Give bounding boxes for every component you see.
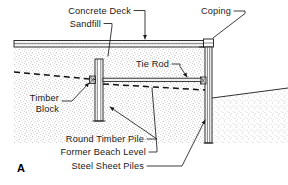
- figure-container: Concrete Deck Sandfill Coping Tie Rod Ti…: [0, 0, 288, 185]
- label-steel-sheet-piles: Steel Sheet Piles: [71, 161, 144, 171]
- label-timber-block-line1: Timber: [30, 93, 59, 103]
- label-concrete-deck: Concrete Deck: [68, 6, 131, 16]
- steel-sheet-pile-wall: [204, 47, 214, 143]
- label-sandfill: Sandfill: [70, 19, 101, 29]
- label-round-timber-pile: Round Timber Pile: [66, 134, 144, 144]
- label-former-beach-level: Former Beach Level: [61, 147, 146, 157]
- seabed-mass: [212, 88, 288, 143]
- label-coping: Coping: [201, 6, 231, 16]
- cross-section-drawing: Concrete Deck Sandfill Coping Tie Rod Ti…: [0, 0, 288, 185]
- label-tie-rod: Tie Rod: [136, 59, 169, 69]
- figure-label: A: [17, 162, 25, 174]
- label-timber-block-line2: Block: [36, 104, 59, 114]
- tie-rod: [103, 78, 201, 81]
- leader-concrete-deck: [134, 11, 145, 40]
